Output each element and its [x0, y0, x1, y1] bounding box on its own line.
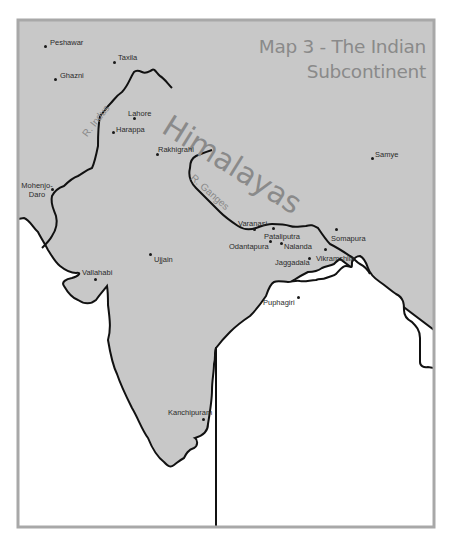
map-title: Map 3 - The Indian Subcontinent [259, 34, 426, 84]
city-marker-icon [324, 248, 327, 251]
city-label: Rakhigrahi [158, 145, 194, 154]
city-label: Kanchipuram [168, 408, 212, 417]
map-title-line1: Map 3 - The Indian [259, 34, 426, 59]
city-label: Mohenjo-Daro [20, 181, 54, 199]
city-marker-icon [94, 278, 97, 281]
city-marker-icon [272, 227, 275, 230]
city-label: Ghazni [60, 71, 84, 80]
city-label: Varanasi [238, 219, 267, 228]
city-marker-icon [335, 228, 338, 231]
city-marker-icon [202, 418, 205, 421]
city-label: Somapura [331, 234, 366, 243]
city-label: Lahore [128, 109, 151, 118]
city-marker-icon [112, 131, 115, 134]
city-marker-icon [269, 240, 272, 243]
city-label: Jaggadala [275, 258, 310, 267]
city-marker-icon [280, 242, 283, 245]
city-marker-icon [54, 78, 57, 81]
city-label: Odantapura [229, 242, 269, 251]
city-label: Taxila [118, 53, 137, 62]
city-label: Samye [375, 150, 398, 159]
city-marker-icon [253, 228, 256, 231]
city-label: Vikramshila [316, 254, 355, 263]
city-marker-icon [297, 296, 300, 299]
city-label: Vallahabi [82, 268, 112, 277]
city-label: Harappa [116, 125, 145, 134]
city-marker-icon [149, 253, 152, 256]
city-marker-icon [113, 61, 116, 64]
city-label: Puphagiri [263, 298, 295, 307]
city-marker-icon [371, 157, 374, 160]
city-label: Nalanda [284, 242, 312, 251]
city-marker-icon [44, 45, 47, 48]
city-label: Peshawar [50, 38, 83, 47]
city-label: Ujjain [154, 255, 173, 264]
map-title-line2: Subcontinent [259, 59, 426, 84]
